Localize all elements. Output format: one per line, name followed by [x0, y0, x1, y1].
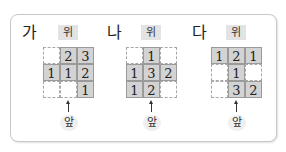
top-label-da: 위 — [226, 25, 246, 40]
grid-na: 113212 — [126, 47, 177, 98]
stack-count-cell: 1 — [77, 81, 94, 98]
stack-count-cell: 2 — [245, 81, 262, 98]
front-label-na: 앞 — [143, 115, 161, 131]
figure-label-na: 나 — [107, 25, 122, 41]
front-arrow-icon — [68, 103, 69, 112]
empty-cell — [43, 47, 60, 64]
grid-da: 121132 — [211, 47, 262, 98]
empty-cell — [126, 47, 143, 64]
stack-count-cell: 1 — [126, 81, 143, 98]
stack-count-cell: 2 — [160, 64, 177, 81]
stack-count-cell: 1 — [60, 64, 77, 81]
empty-cell — [43, 81, 60, 98]
front-label-da: 앞 — [228, 115, 246, 131]
stack-count-cell: 2 — [60, 47, 77, 64]
empty-cell — [245, 64, 262, 81]
empty-cell — [60, 81, 77, 98]
stack-count-cell: 2 — [77, 64, 94, 81]
stack-count-cell: 3 — [77, 47, 94, 64]
stack-count-cell: 1 — [211, 47, 228, 64]
front-label-ga: 앞 — [60, 115, 78, 131]
stack-count-cell: 1 — [43, 64, 60, 81]
stack-count-cell: 2 — [143, 81, 160, 98]
front-arrow-icon — [151, 103, 152, 112]
front-arrow-icon — [236, 103, 237, 112]
stack-count-cell: 3 — [228, 81, 245, 98]
empty-cell — [211, 64, 228, 81]
empty-cell — [160, 47, 177, 64]
stack-count-cell: 1 — [143, 47, 160, 64]
figure-label-ga: 가 — [22, 25, 37, 41]
stack-count-cell: 3 — [143, 64, 160, 81]
figure-label-da: 다 — [192, 25, 207, 41]
grid-ga: 231121 — [43, 47, 94, 98]
stack-count-cell: 1 — [245, 47, 262, 64]
top-label-na: 위 — [141, 25, 161, 40]
empty-cell — [160, 81, 177, 98]
stack-count-cell: 1 — [126, 64, 143, 81]
empty-cell — [211, 81, 228, 98]
top-label-ga: 위 — [58, 25, 78, 40]
stack-count-cell: 2 — [228, 47, 245, 64]
stack-count-cell: 1 — [228, 64, 245, 81]
